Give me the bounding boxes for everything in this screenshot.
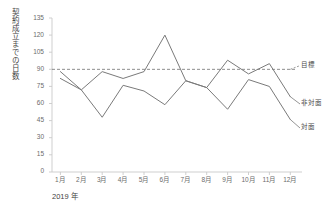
x-tick-label: 1月 (50, 177, 70, 184)
x-axis-title: 2019 年 (52, 190, 78, 201)
x-tick-label: 2月 (71, 177, 91, 184)
chart-container: 契約成立までの日数 135 120 105 90 75 60 45 30 15 … (0, 0, 324, 214)
non-face-series-label: 非対面 (301, 100, 322, 107)
x-tick-label: 3月 (92, 177, 112, 184)
x-tick-label: 5月 (134, 177, 154, 184)
x-tick-label: 8月 (197, 177, 217, 184)
target-label-leader (290, 66, 299, 69)
x-tick-label: 11月 (258, 177, 280, 184)
face-series-label: 対面 (301, 124, 315, 131)
x-tick-label: 12月 (279, 177, 301, 184)
face-label-leader (290, 120, 300, 129)
x-tick-label: 6月 (155, 177, 175, 184)
non-face-label-leader (290, 97, 300, 104)
x-tick-label: 7月 (176, 177, 196, 184)
series-line-face (60, 78, 290, 119)
series-line-non-face (60, 35, 290, 97)
x-tick-label: 10月 (238, 177, 260, 184)
x-tick-label: 4月 (113, 177, 133, 184)
x-tick-label: 9月 (218, 177, 238, 184)
target-series-label: 目標 (301, 62, 315, 69)
